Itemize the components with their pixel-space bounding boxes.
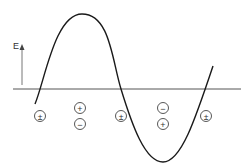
plus-minus-symbol: ±: [119, 112, 124, 122]
plus-minus-symbol: ±: [204, 112, 209, 122]
sine-curve: [35, 14, 213, 162]
charge-marker-3: ±: [116, 111, 127, 122]
charge-marker-5: ±: [201, 111, 212, 122]
charge-marker-2: + −: [75, 103, 86, 130]
minus-symbol: −: [77, 120, 82, 130]
axis-label-e: E: [13, 41, 19, 51]
plus-symbol: +: [160, 120, 165, 130]
e-axis: E: [13, 41, 25, 85]
field-wave-diagram: E ± + − ± − + ±: [0, 0, 252, 163]
plus-minus-symbol: ±: [38, 112, 43, 122]
plus-symbol: +: [77, 104, 82, 114]
charge-marker-1: ±: [35, 111, 46, 122]
arrow-up-icon: [20, 44, 25, 50]
charge-marker-4: − +: [158, 103, 169, 130]
minus-symbol: −: [160, 104, 165, 114]
